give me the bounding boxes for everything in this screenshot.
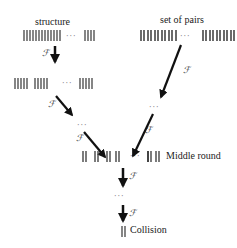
middle-round-bit-row: [83, 151, 159, 162]
diagram-canvas: [0, 0, 237, 248]
structure-bit-row: [24, 30, 94, 41]
second-bit-row: [15, 78, 92, 89]
collision-bit-row: [122, 226, 125, 237]
arrow-left-diag-1: [56, 96, 72, 115]
arrow-right-diag-2: [133, 114, 153, 156]
arrow-right-diag-1: [161, 45, 181, 97]
pairs-bit-row: [141, 30, 234, 41]
